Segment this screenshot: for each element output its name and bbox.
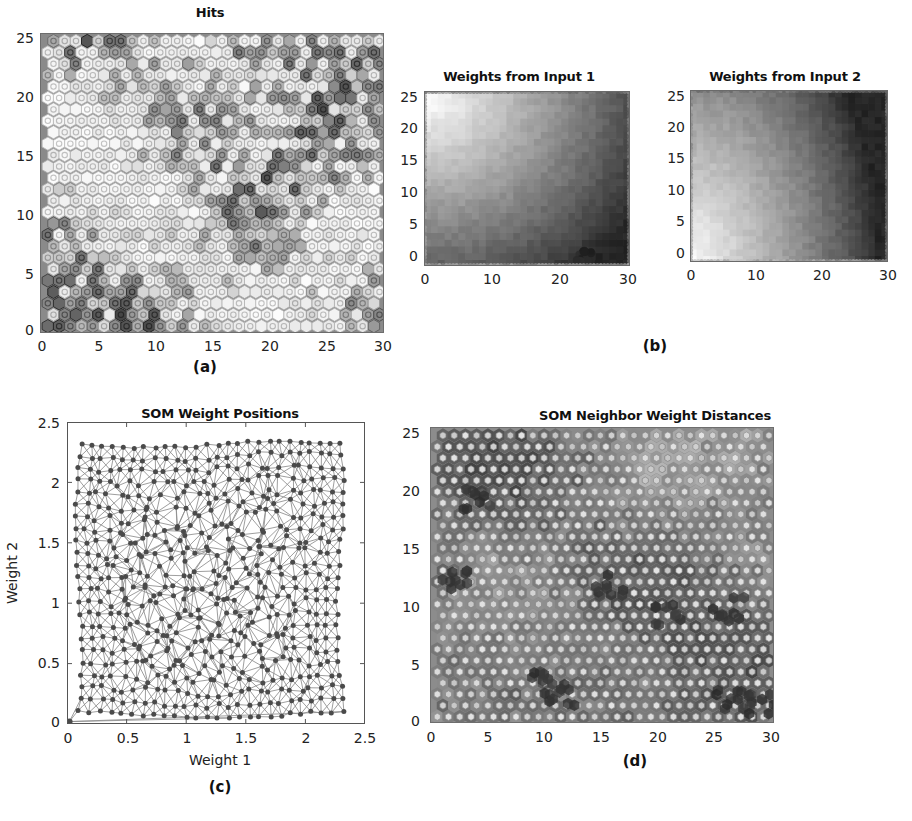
panel-d-ytick-0: 25 [394, 425, 420, 441]
panel-a-ytick-2: 15 [8, 148, 34, 164]
panel-d-caption: (d) [615, 752, 655, 770]
panel-d-ytick-5: 0 [394, 713, 420, 729]
panel-c-xtick-3: 1.5 [229, 730, 263, 746]
panel-b-left-ytick-3: 10 [392, 184, 418, 200]
panel-d-xtick-1: 5 [477, 729, 499, 745]
panel-b-right-xtick-1: 10 [745, 267, 767, 283]
panel-c: SOM Weight Positions 2.5 2 1.5 1 0.5 0 W… [0, 400, 400, 820]
panel-a-ytick-4: 5 [8, 266, 34, 282]
panel-b-right-xtick-0: 0 [680, 267, 702, 283]
panel-b-left-xtick-1: 10 [481, 271, 503, 287]
panel-a-ytick-0: 25 [8, 30, 34, 46]
som-weight-positions-scatter [67, 422, 365, 724]
panel-d-xtick-3: 15 [590, 729, 612, 745]
panel-c-xtick-5: 2.5 [348, 730, 382, 746]
panel-a-xtick-4: 20 [258, 338, 282, 354]
panel-b-left-ytick-2: 15 [392, 152, 418, 168]
panel-d-plot [430, 427, 774, 723]
panel-b-left-xtick-2: 20 [549, 271, 571, 287]
panel-a-xtick-1: 5 [87, 338, 111, 354]
panel-a-xtick-0: 0 [30, 338, 54, 354]
panel-a-ytick-5: 0 [8, 322, 34, 338]
panel-b-right-ytick-3: 10 [659, 182, 685, 198]
panel-d: SOM Neighbor Weight Distances 25 20 15 1… [390, 400, 912, 820]
panel-b-right-xtick-3: 30 [877, 267, 899, 283]
panel-c-ytick-0: 2.5 [20, 415, 60, 431]
panel-b-left-ytick-0: 25 [392, 89, 418, 105]
panel-b-right-ytick-1: 20 [659, 119, 685, 135]
panel-c-xtick-0: 0 [57, 730, 79, 746]
panel-a: Hits 25 20 15 10 5 0 0 5 10 15 20 25 30 … [0, 0, 400, 380]
panel-b-right-ytick-4: 5 [659, 213, 685, 229]
panel-c-xtick-4: 2 [295, 730, 317, 746]
panel-d-xtick-2: 10 [533, 729, 555, 745]
panel-c-xtick-1: 0.5 [111, 730, 145, 746]
panel-c-ytick-3: 1 [20, 595, 60, 611]
panel-a-title: Hits [150, 5, 270, 20]
panel-b-left-xtick-0: 0 [414, 271, 436, 287]
panel-b-caption: (b) [635, 337, 675, 355]
panel-c-ytick-5: 0 [20, 714, 60, 730]
panel-c-title: SOM Weight Positions [125, 406, 315, 421]
panel-c-ylabel: Weight 2 [4, 538, 20, 608]
som-neighbor-distances-hexgrid [430, 427, 774, 723]
panel-a-xtick-5: 25 [315, 338, 339, 354]
panel-b-right-title: Weights from Input 2 [670, 69, 900, 84]
weights-input-1-heatmap [424, 91, 630, 266]
panel-d-ytick-3: 10 [394, 599, 420, 615]
panel-d-xtick-6: 30 [760, 729, 782, 745]
panel-d-ytick-2: 15 [394, 541, 420, 557]
hits-hexgrid [40, 33, 384, 333]
panel-d-ytick-1: 20 [394, 483, 420, 499]
panel-b-right-ytick-0: 25 [659, 88, 685, 104]
panel-c-xlabel: Weight 1 [180, 752, 260, 768]
panel-c-ytick-4: 0.5 [20, 655, 60, 671]
panel-b: Weights from Input 1 25 20 15 10 5 0 0 1… [390, 55, 912, 375]
panel-a-xtick-3: 15 [201, 338, 225, 354]
panel-d-xtick-5: 25 [703, 729, 725, 745]
panel-b-left-xtick-3: 30 [617, 271, 639, 287]
panel-b-right-ytick-5: 0 [659, 245, 685, 261]
panel-d-title: SOM Neighbor Weight Distances [495, 408, 815, 423]
panel-b-left-ytick-1: 20 [392, 120, 418, 136]
panel-b-left-ytick-5: 0 [392, 248, 418, 264]
panel-b-right-xtick-2: 20 [811, 267, 833, 283]
panel-d-xtick-4: 20 [647, 729, 669, 745]
weights-input-2-heatmap [690, 90, 888, 262]
panel-b-right-ytick-2: 15 [659, 150, 685, 166]
panel-a-caption: (a) [185, 358, 225, 376]
panel-c-ytick-2: 1.5 [20, 535, 60, 551]
panel-a-xtick-2: 10 [144, 338, 168, 354]
panel-b-left-ytick-4: 5 [392, 216, 418, 232]
panel-a-ytick-3: 10 [8, 207, 34, 223]
panel-a-ytick-1: 20 [8, 89, 34, 105]
panel-b-left-plot [424, 91, 630, 266]
panel-a-plot [40, 33, 384, 333]
panel-d-xtick-0: 0 [420, 729, 442, 745]
panel-c-plot [67, 422, 365, 724]
panel-b-right-plot [690, 90, 888, 262]
panel-c-caption: (c) [200, 778, 240, 796]
panel-c-ytick-1: 2 [20, 475, 60, 491]
panel-d-ytick-4: 5 [394, 657, 420, 673]
panel-b-left-title: Weights from Input 1 [404, 69, 634, 84]
panel-c-xtick-2: 1 [176, 730, 198, 746]
